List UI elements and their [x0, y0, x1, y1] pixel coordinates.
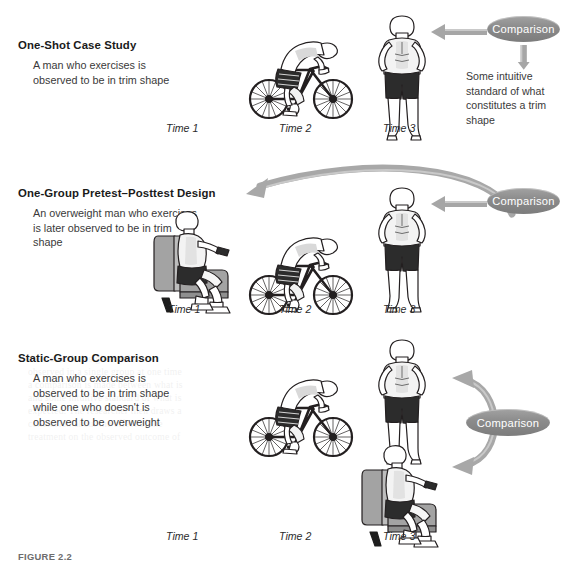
- panel-description: A man who exercises is observed to be in…: [33, 371, 183, 429]
- time-label-1-panel2: Time 1: [168, 303, 200, 315]
- comparison-badge-panel2: Comparison: [487, 188, 560, 214]
- time-label-1-panel3: Time 1: [166, 530, 198, 542]
- time-label-3-panel2: Time 3: [383, 303, 415, 315]
- time-label-2-panel1: Time 2: [279, 122, 311, 134]
- cyclist-illustration-panel1: [248, 36, 360, 122]
- comparison-arrow-down-panel1: [512, 45, 536, 71]
- time-label-3-panel3: Time 3: [383, 530, 415, 542]
- comparison-arrow-left-panel2: [431, 196, 493, 214]
- panel-title: One-Shot Case Study: [18, 39, 136, 51]
- time-label-1-panel1: Time 1: [166, 122, 198, 134]
- figure-caption: FIGURE 2.2: [18, 551, 72, 562]
- time-label-3-panel1: Time 3: [383, 122, 415, 134]
- cyclist-illustration-panel3: [248, 374, 360, 460]
- comparison-badge-panel3: Comparison: [466, 409, 550, 436]
- comparison-arrow-left-panel1: [431, 24, 493, 42]
- trim-standing-man-illustration-panel2: [376, 186, 430, 316]
- time-label-2-panel2: Time 2: [279, 303, 311, 315]
- comparison-badge-panel1: Comparison: [487, 16, 560, 42]
- panel-title: One-Group Pretest–Posttest Design: [18, 187, 216, 199]
- panel-description: A man who exercises is observed to be in…: [33, 58, 193, 87]
- comparison-standard-note: Some intuitive standard of what constitu…: [466, 69, 561, 127]
- time-label-2-panel3: Time 2: [279, 530, 311, 542]
- overweight-seated-man-illustration-panel2: [152, 208, 238, 318]
- panel-title: Static-Group Comparison: [18, 352, 159, 364]
